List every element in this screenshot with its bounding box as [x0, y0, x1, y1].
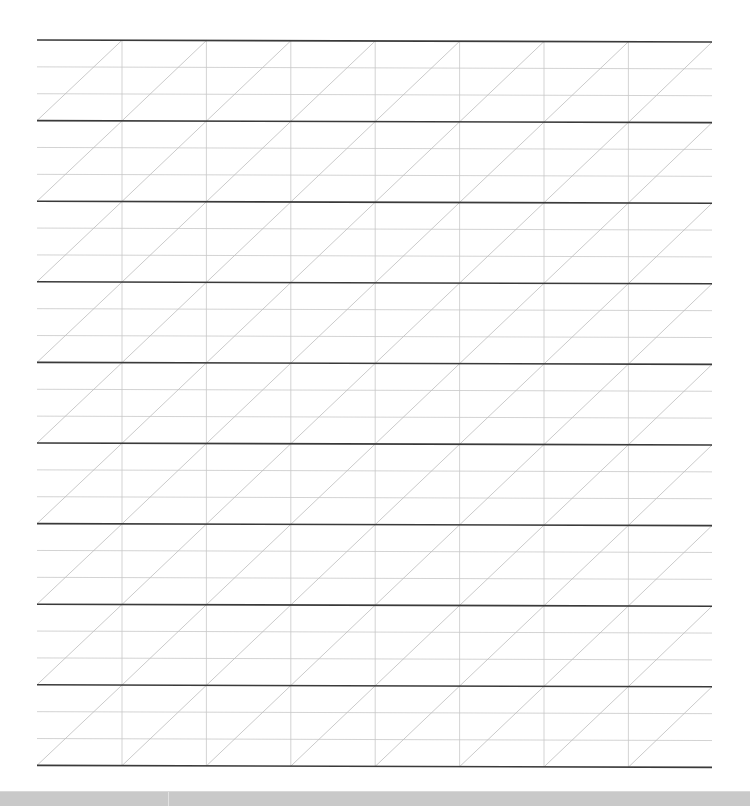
- slant-guide-line: [37, 201, 122, 281]
- slant-guide-line: [460, 283, 544, 363]
- slant-guide-line: [122, 524, 206, 604]
- slant-guide-line: [206, 363, 290, 443]
- slant-guide-line: [291, 363, 375, 443]
- guide-line: [37, 577, 712, 579]
- bottom-bar-right-segment[interactable]: [169, 792, 750, 806]
- slant-guide-line: [544, 606, 628, 686]
- slant-guide-line: [122, 282, 206, 362]
- slant-guide-line: [37, 524, 122, 604]
- slant-guide-line: [628, 284, 712, 364]
- slant-guide-line: [122, 121, 206, 201]
- slant-guide-line: [122, 685, 206, 765]
- slant-guide-line: [206, 605, 290, 685]
- slant-guide-line: [291, 122, 375, 202]
- slant-guide-line: [544, 445, 628, 525]
- slant-guide-line: [628, 42, 712, 122]
- slant-guide-line: [375, 122, 459, 202]
- slant-guide-line: [628, 687, 712, 767]
- handwriting-grid: [0, 0, 750, 790]
- guide-line: [37, 739, 712, 741]
- slant-guide-line: [628, 364, 712, 444]
- slant-guide-line: [375, 444, 459, 524]
- slant-guide-line: [544, 203, 628, 283]
- baseline: [37, 685, 712, 687]
- slant-guide-line: [460, 42, 544, 122]
- slant-guide-line: [460, 445, 544, 525]
- slant-guide-line: [122, 202, 206, 282]
- guide-line: [37, 255, 712, 257]
- slant-guide-line: [291, 444, 375, 524]
- slant-guide-line: [375, 283, 459, 363]
- slant-guide-line: [291, 283, 375, 363]
- slant-guide-line: [544, 525, 628, 605]
- slant-guide-line: [375, 202, 459, 282]
- guide-line: [37, 550, 712, 552]
- slant-guide-line: [375, 525, 459, 605]
- guide-line: [37, 416, 712, 418]
- baseline: [37, 201, 712, 203]
- guide-line: [37, 389, 712, 391]
- bottom-scroll-bar[interactable]: [0, 791, 750, 806]
- slant-guide-line: [460, 122, 544, 202]
- slant-guide-line: [291, 41, 375, 121]
- slant-guide-line: [37, 604, 122, 684]
- slant-guide-line: [122, 444, 206, 524]
- baseline: [37, 40, 712, 42]
- slant-guide-line: [206, 686, 290, 766]
- slant-guide-line: [628, 445, 712, 525]
- guide-line: [37, 470, 712, 472]
- guide-line: [37, 658, 712, 660]
- practice-sheet: [0, 0, 750, 806]
- slant-guide-line: [544, 364, 628, 444]
- baseline: [37, 362, 712, 364]
- guide-line: [37, 174, 712, 176]
- guide-line: [37, 147, 712, 149]
- guide-line: [37, 712, 712, 714]
- slant-guide-line: [460, 525, 544, 605]
- slant-guide-line: [628, 203, 712, 283]
- slant-guide-line: [37, 443, 122, 523]
- slant-guide-line: [206, 202, 290, 282]
- guide-line: [37, 228, 712, 230]
- slant-guide-line: [460, 686, 544, 766]
- slant-guide-line: [544, 122, 628, 202]
- guide-line: [37, 67, 712, 69]
- slant-guide-line: [37, 121, 122, 201]
- slant-guide-line: [375, 364, 459, 444]
- slant-guide-line: [37, 282, 122, 362]
- slant-guide-line: [206, 121, 290, 201]
- slant-guide-line: [544, 284, 628, 364]
- baseline: [37, 443, 712, 445]
- slant-guide-line: [206, 283, 290, 363]
- guide-line: [37, 631, 712, 633]
- slant-guide-line: [122, 41, 206, 121]
- slant-guide-line: [460, 606, 544, 686]
- slant-guide-line: [628, 606, 712, 686]
- baseline: [37, 604, 712, 606]
- bottom-bar-left-segment[interactable]: [0, 792, 169, 806]
- slant-guide-line: [206, 41, 290, 121]
- guide-line: [37, 497, 712, 499]
- slant-guide-line: [375, 686, 459, 766]
- slant-guide-line: [122, 363, 206, 443]
- slant-guide-line: [122, 605, 206, 685]
- baseline: [37, 121, 712, 123]
- slant-guide-line: [544, 42, 628, 122]
- guide-line: [37, 94, 712, 96]
- baseline: [37, 282, 712, 284]
- guide-line: [37, 309, 712, 311]
- slant-guide-line: [375, 605, 459, 685]
- slant-guide-line: [206, 524, 290, 604]
- slant-guide-line: [291, 686, 375, 766]
- slant-guide-line: [37, 40, 122, 120]
- slant-guide-line: [628, 526, 712, 606]
- slant-guide-line: [37, 685, 122, 765]
- baseline: [37, 524, 712, 526]
- slant-guide-line: [375, 41, 459, 121]
- slant-guide-line: [460, 364, 544, 444]
- baseline: [37, 765, 712, 767]
- slant-guide-line: [291, 202, 375, 282]
- slant-guide-line: [628, 123, 712, 203]
- slant-guide-line: [544, 687, 628, 767]
- slant-guide-line: [206, 444, 290, 524]
